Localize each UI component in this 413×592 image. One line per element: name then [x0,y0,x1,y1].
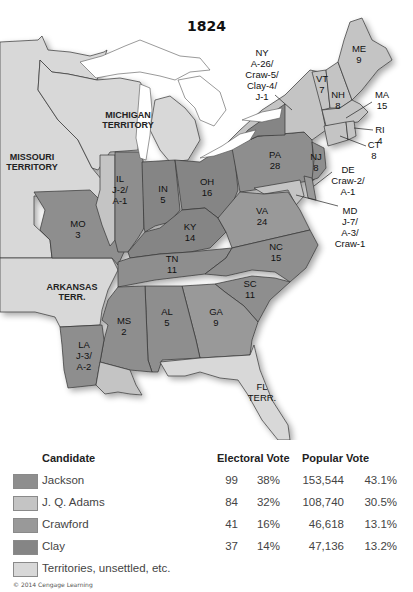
legend-electoral: 99 [225,474,238,486]
legend-header-popular: Popular Vote [302,452,369,464]
map-label-de: DECraw-2/A-1 [331,164,365,197]
election-map-1824: MISSOURITERRITORYMICHIGANTERRITORYARKANS… [0,0,413,440]
legend-swatch-jackson [13,474,38,489]
legend-swatch-crawford [13,518,38,533]
legend-electoral-pct: 38% [257,474,280,486]
legend-swatch-clay [13,540,38,555]
leader-line-md [296,195,338,206]
map-label-md: MDJ-7/A-3/Craw-1 [335,205,366,249]
map-label-ny: NYA-26/Craw-5/Clay-4/J-1 [245,47,279,102]
legend-candidate-name: Jackson [42,474,84,486]
map-label-ct: CT8 [368,139,381,161]
map-label-pa: PA28 [269,149,282,171]
legend-electoral-pct: 32% [257,496,280,508]
map-label-va: VA24 [256,205,269,227]
legend-row: Jackson9938%153,54443.1% [0,474,413,494]
map-label-nc: NC15 [269,241,283,263]
legend-electoral: 41 [225,518,238,530]
map-label-oh: OH16 [200,176,214,198]
legend-popular-pct: 13.2% [364,540,397,552]
legend-electoral: 37 [225,540,238,552]
leader-line-ri [354,128,373,130]
legend-row: Territories, unsettled, etc. [0,562,413,582]
legend-popular: 153,544 [302,474,344,486]
legend-row: Clay3714%47,13613.2% [0,540,413,560]
legend-header-candidate: Candidate [42,452,95,464]
map-label-missouri-territory: MISSOURITERRITORY [6,152,58,172]
legend-popular: 108,740 [302,496,344,508]
legend-popular-pct: 43.1% [364,474,397,486]
legend-swatch-territory [13,562,38,577]
map-label-ky: KY14 [184,221,197,243]
map-label-michigan-territory: MICHIGANTERRITORY [102,110,154,130]
legend-popular-pct: 13.1% [364,518,397,530]
legend-electoral-pct: 14% [257,540,280,552]
legend-candidate-name: Crawford [42,518,89,530]
legend-candidate-name: Clay [42,540,65,552]
state-RI [346,121,356,140]
legend-header-electoral: Electoral Vote [217,452,290,464]
map-label-sc: SC11 [243,278,256,300]
legend-popular: 46,618 [309,518,344,530]
copyright: © 2014 Cengage Learning [13,581,93,588]
legend-electoral-pct: 16% [257,518,280,530]
legend-row: J. Q. Adams8432%108,74030.5% [0,496,413,516]
state-CT [324,122,348,146]
map-label-ma: MA15 [375,89,390,111]
legend-swatch-adams [13,496,38,511]
legend-row: Crawford4116%46,61813.1% [0,518,413,538]
lake-superior [80,40,210,80]
legend-candidate-name: Territories, unsettled, etc. [42,562,170,574]
legend-electoral: 84 [225,496,238,508]
map-label-tn: TN11 [166,253,179,275]
legend-popular: 47,136 [309,540,344,552]
legend-popular-pct: 30.5% [364,496,397,508]
legend-candidate-name: J. Q. Adams [42,496,105,508]
